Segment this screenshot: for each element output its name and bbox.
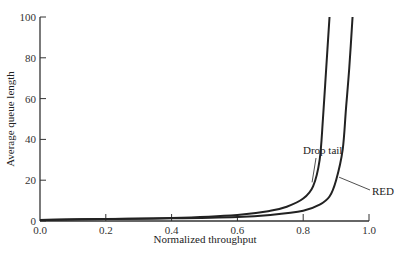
y-tick-label: 40 [25, 133, 37, 145]
y-tick-label: 60 [25, 93, 37, 105]
axes [40, 17, 369, 221]
y-tick-label: 20 [25, 174, 37, 186]
x-tick-label: 0.8 [296, 224, 310, 236]
annotation-red: RED [372, 185, 394, 197]
y-axis-title: Average queue length [4, 71, 16, 167]
x-tick-label: 0.2 [99, 224, 113, 236]
annotation-drop-tail: Drop tail [303, 144, 342, 156]
y-tick-label: 80 [25, 52, 37, 64]
x-tick-label: 0.0 [33, 224, 47, 236]
annotation-arrow [339, 177, 370, 190]
y-ticks: 020406080100 [20, 11, 47, 227]
y-tick-label: 100 [20, 11, 37, 23]
x-axis-title: Normalized throughput [154, 233, 257, 245]
series-line-red [40, 17, 353, 220]
annotations: Drop tailRED [303, 144, 394, 197]
queue-length-chart: 020406080100 0.00.20.40.60.81.0 Drop tai… [0, 0, 405, 258]
series-line-drop-tail [40, 17, 330, 220]
series-lines [40, 17, 353, 220]
x-tick-label: 1.0 [362, 224, 376, 236]
